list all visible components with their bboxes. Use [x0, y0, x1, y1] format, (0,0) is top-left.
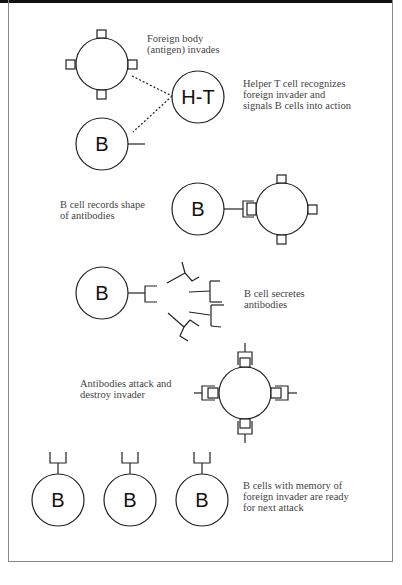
b-cell-label: B — [123, 489, 136, 511]
label-helper-t: Helper T cell recognizes foreign invader… — [243, 78, 351, 111]
signal-line — [132, 76, 172, 96]
b-cell: B — [76, 118, 145, 170]
antibody — [167, 262, 199, 283]
helper-t-cell: H-T — [172, 71, 224, 123]
antigen-bound — [247, 175, 317, 244]
memory-b-cell: B — [32, 452, 84, 526]
b-cell-label: B — [51, 489, 64, 511]
antigen-receptor — [97, 30, 106, 38]
antibody — [168, 313, 199, 341]
helper-t-label: H-T — [181, 86, 214, 108]
label-antigen: Foreign body (antigen) invades — [147, 33, 220, 55]
label-secrete: B cell secretes antibodies — [244, 288, 305, 310]
memory-b-cell: B — [176, 452, 228, 526]
antigen-receptor — [66, 60, 75, 69]
label-memory: B cells with memory of foreign invader a… — [243, 480, 349, 513]
memory-b-cell: B — [104, 452, 156, 526]
b-cell-secreting: B — [76, 267, 157, 319]
b-cell-recording: B — [172, 183, 254, 235]
b-cell-label: B — [95, 282, 108, 304]
antigen-cell — [66, 30, 137, 99]
antibody — [189, 305, 224, 327]
label-record: B cell records shape of antibodies — [60, 199, 145, 221]
b-cell-label: B — [95, 133, 108, 155]
label-attack: Antibodies attack and destroy invader — [80, 378, 172, 400]
b-cell-label: B — [191, 198, 204, 220]
antigen-receptor — [97, 90, 106, 99]
b-cell-label: B — [195, 489, 208, 511]
antibody — [189, 281, 222, 302]
signal-line — [133, 96, 172, 132]
antigen-receptor — [128, 60, 137, 69]
antigen-destroyed — [194, 343, 297, 443]
